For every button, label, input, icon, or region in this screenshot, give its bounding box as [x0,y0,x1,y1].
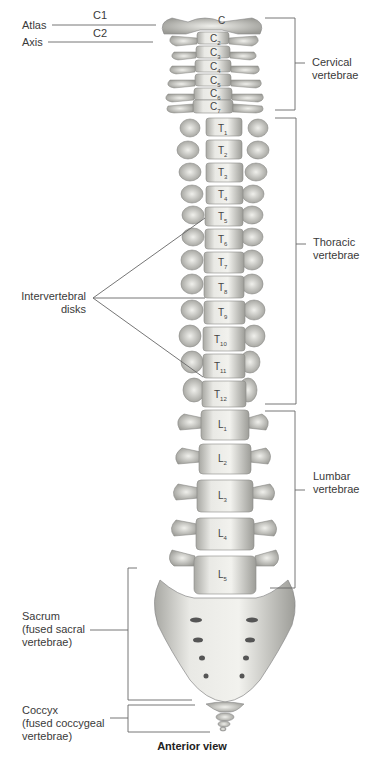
intervertebral-line-1: Intervertebral [10,290,86,303]
lumbar-line-2: vertebrae [313,483,359,496]
cervical-line-2: vertebrae [312,69,358,82]
coccyx-line-2: (fused coccygeal [22,717,105,730]
thoracic-line-1: Thoracic [313,236,359,249]
thoracic-bracket [265,118,296,404]
atlas-label: Atlas [22,19,46,32]
sacrum-line-2: (fused sacral [22,623,85,636]
c1-label: C1 [93,9,107,22]
cervical-vertebrae-label: Cervical vertebrae [312,56,358,82]
coccyx-art [206,702,244,731]
thoracic-vertebrae-label: Thoracic vertebrae [313,236,359,262]
sacrum-label: Sacrum (fused sacral vertebrae) [22,610,85,649]
coccyx-line-1: Coccyx [22,704,105,717]
vertebra-label-c1: C [218,15,225,26]
cervical-bracket [265,18,295,110]
spine-illustration: C C2 C3 C4 C5 C6 C7 T1 T2 T3 T4 T5 T6 T7… [0,0,384,765]
intervertebral-disks-label: Intervertebral disks [10,290,86,316]
axis-label: Axis [22,36,43,49]
figure-caption: Anterior view [0,740,384,752]
intervertebral-line-2: disks [10,303,86,316]
sacrum-line-3: vertebrae) [22,636,85,649]
cervical-line-1: Cervical [312,56,358,69]
thoracic-line-2: vertebrae [313,249,359,262]
c2-label: C2 [93,27,107,40]
lumbar-line-1: Lumbar [313,470,359,483]
sacrum-art [154,580,295,702]
coccyx-label: Coccyx (fused coccygeal vertebrae) [22,704,105,743]
sacrum-line-1: Sacrum [22,610,85,623]
lumbar-vertebrae-label: Lumbar vertebrae [313,470,359,496]
coccyx-bracket [128,705,210,732]
